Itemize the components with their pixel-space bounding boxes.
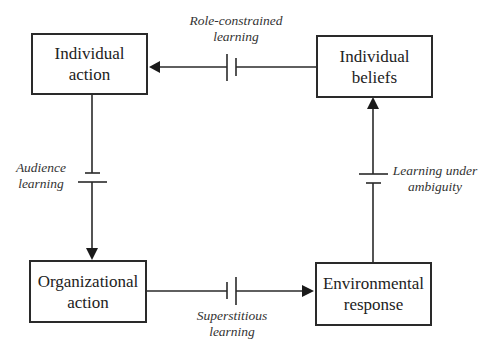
label-line1: Audience (10, 160, 72, 176)
label-line1: Learning under (390, 163, 480, 179)
box-text-line1: Individual (55, 43, 125, 64)
label-superstitious-learning: Superstitious learning (186, 308, 278, 340)
label-audience-learning: Audience learning (10, 160, 72, 192)
box-text-line1: Individual (340, 46, 410, 67)
box-text-line1: Environmental (323, 273, 424, 294)
box-text-line2: beliefs (352, 67, 397, 88)
box-text-line2: action (67, 292, 109, 313)
label-role-constrained-learning: Role-constrained learning (176, 13, 296, 45)
arrowhead-right-icon (302, 285, 314, 297)
arrowhead-up-icon (367, 97, 379, 109)
edge-role-constrained (158, 54, 316, 81)
box-text-line2: response (344, 294, 403, 315)
arrowhead-left-icon (149, 61, 160, 73)
label-line2: ambiguity (390, 179, 480, 195)
box-organizational-action: Organizational action (29, 260, 147, 323)
label-line1: Superstitious (186, 308, 278, 324)
label-line2: learning (186, 324, 278, 340)
box-environmental-response: Environmental response (315, 262, 432, 326)
label-line1: Role-constrained (176, 13, 296, 29)
edge-audience (78, 94, 107, 250)
box-text-line1: Organizational (38, 271, 139, 292)
learning-cycle-diagram: Individual action Individual beliefs Org… (0, 0, 492, 350)
box-text-line2: action (69, 64, 111, 85)
label-line2: learning (176, 29, 296, 45)
label-line2: learning (10, 176, 72, 192)
edge-superstitious (146, 277, 304, 305)
box-individual-beliefs: Individual beliefs (316, 35, 433, 98)
edge-ambiguity (359, 108, 388, 263)
box-individual-action: Individual action (31, 33, 148, 95)
label-learning-under-ambiguity: Learning under ambiguity (390, 163, 480, 195)
arrowhead-down-icon (86, 248, 98, 260)
